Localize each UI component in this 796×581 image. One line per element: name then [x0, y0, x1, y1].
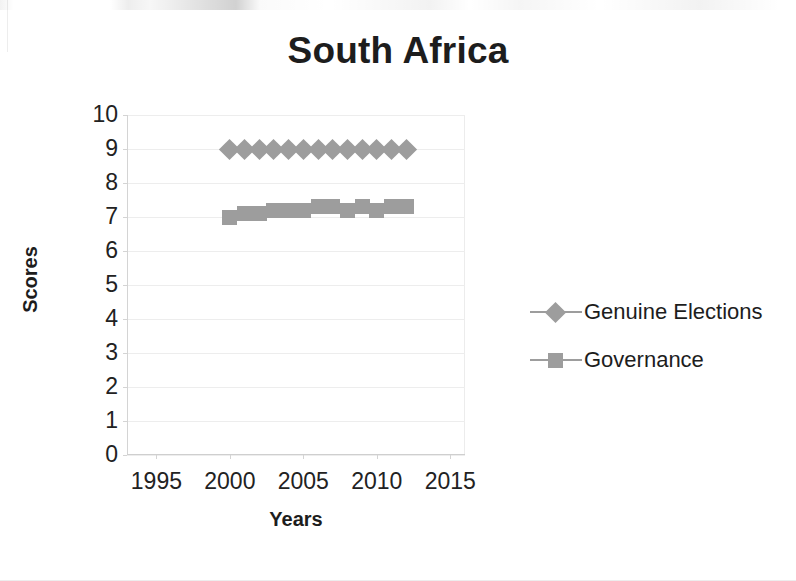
legend-item[interactable]: Genuine Elections	[528, 288, 790, 336]
chart-container: South Africa Scores 109876543210 1995200…	[0, 0, 796, 581]
y-axis-title: Scores	[19, 220, 42, 340]
x-axis-tick	[377, 455, 378, 459]
y-axis-tick-label: 2	[68, 375, 118, 398]
x-axis-tick	[156, 455, 157, 459]
gridline	[127, 149, 465, 150]
y-axis-tick	[123, 353, 127, 354]
y-axis-tick-label: 4	[68, 307, 118, 330]
x-axis-tick-label: 1995	[116, 470, 196, 493]
y-axis-tick-label: 9	[68, 137, 118, 160]
gridline	[127, 353, 465, 354]
legend-item[interactable]: Governance	[528, 336, 790, 384]
y-axis-tick-labels: 109876543210	[64, 115, 118, 455]
legend-key	[528, 350, 584, 370]
x-axis-tick-label: 2010	[337, 470, 417, 493]
x-axis-tick	[450, 455, 451, 459]
y-axis-tick-label: 1	[68, 409, 118, 432]
y-axis-tick	[123, 251, 127, 252]
x-axis-line	[127, 454, 465, 455]
gridline	[127, 387, 465, 388]
legend-diamond-icon	[545, 302, 566, 323]
y-axis-tick	[123, 149, 127, 150]
y-axis-tick-label: 8	[68, 171, 118, 194]
legend-key	[528, 302, 584, 322]
x-axis-tick-label: 2015	[410, 470, 490, 493]
x-axis-title: Years	[127, 508, 465, 531]
chart-legend: Genuine ElectionsGovernance	[528, 288, 790, 384]
x-axis-tick	[303, 455, 304, 459]
y-axis-tick-label: 10	[68, 103, 118, 126]
legend-square-icon	[548, 353, 563, 368]
gridline	[127, 319, 465, 320]
y-axis-tick	[123, 387, 127, 388]
y-axis-tick	[123, 115, 127, 116]
y-axis-line	[127, 115, 128, 455]
gridline	[127, 251, 465, 252]
y-axis-tick	[123, 319, 127, 320]
y-axis-tick	[123, 217, 127, 218]
y-axis-tick	[123, 455, 127, 456]
chart-title: South Africa	[0, 30, 796, 72]
y-axis-tick	[123, 183, 127, 184]
x-axis-tick-label: 2005	[263, 470, 343, 493]
y-axis-tick	[123, 421, 127, 422]
gridline	[127, 455, 465, 456]
y-axis-tick-label: 5	[68, 273, 118, 296]
y-axis-tick-label: 7	[68, 205, 118, 228]
y-axis-tick-label: 0	[68, 443, 118, 466]
gridline	[127, 285, 465, 286]
y-axis-tick	[123, 285, 127, 286]
plot-area	[127, 115, 465, 455]
x-axis-tick-labels: 19952000200520102015	[0, 470, 796, 500]
x-axis-tick-label: 2000	[190, 470, 270, 493]
legend-label: Genuine Elections	[584, 299, 763, 325]
legend-label: Governance	[584, 347, 704, 373]
gridline	[127, 421, 465, 422]
y-axis-tick-label: 3	[68, 341, 118, 364]
gridline	[127, 115, 465, 116]
x-axis-tick	[230, 455, 231, 459]
gridline	[127, 183, 465, 184]
gridline	[127, 217, 465, 218]
y-axis-tick-label: 6	[68, 239, 118, 262]
